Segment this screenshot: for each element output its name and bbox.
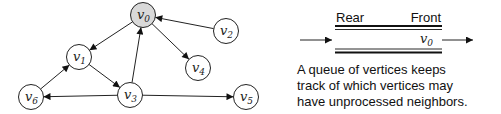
node-v6: v6 (19, 85, 44, 110)
node-v0: v0 (131, 3, 156, 28)
node-v2: v2 (214, 19, 239, 44)
node-v4: v4 (186, 56, 211, 81)
edge-v1-to-v3 (89, 64, 120, 87)
queue-items: v0 (420, 31, 433, 48)
queue-rear-label: Rear (336, 10, 365, 25)
edge-v0-to-v1 (89, 22, 132, 50)
caption-line: track of which vertices may (297, 78, 501, 94)
edge-v2-to-v0 (155, 17, 213, 28)
node-v1: v1 (67, 45, 92, 70)
caption-line: have unprocessed neighbors. (297, 94, 501, 110)
node-v3: v3 (118, 83, 143, 108)
graph-nodes: v0v1v2v3v4v5v6 (19, 3, 259, 110)
queue-item: v0 (420, 31, 433, 48)
node-v5: v5 (234, 85, 259, 110)
edge-v0-to-v4 (152, 24, 189, 60)
caption-line: A queue of vertices keeps (297, 62, 501, 78)
edge-v6-to-v1 (41, 65, 70, 89)
queue: Rear Front v0 (300, 10, 473, 53)
queue-front-label: Front (411, 10, 442, 25)
queue-caption: A queue of vertices keeps track of which… (297, 62, 501, 110)
edge-v3-to-v6 (43, 95, 117, 96)
edge-v3-to-v0 (132, 27, 141, 82)
edge-v3-to-v5 (142, 95, 233, 97)
